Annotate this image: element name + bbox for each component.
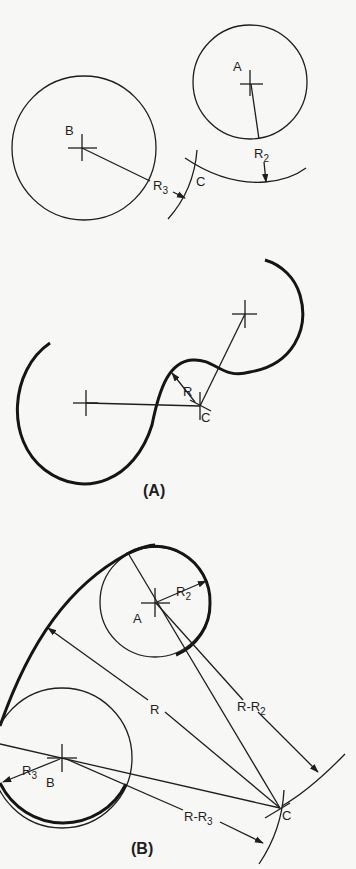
label-b: B bbox=[65, 123, 74, 138]
label-r-minus-r2: R-R2 bbox=[237, 699, 266, 717]
thick-arc-b bbox=[0, 783, 126, 823]
thick-arc-a bbox=[127, 546, 210, 655]
line-a-to-c bbox=[128, 553, 280, 808]
arrow-r-minus-r2 bbox=[258, 712, 318, 772]
line-to-c-right bbox=[200, 314, 245, 406]
label-r2: R2 bbox=[254, 146, 269, 164]
geometric-construction-diagram: A B R2 R3 C bbox=[0, 0, 356, 869]
label-r-minus-r3: R-R3 bbox=[184, 809, 213, 827]
label-b: B bbox=[46, 775, 55, 790]
label-r: R bbox=[150, 702, 159, 717]
label-a: A bbox=[233, 59, 242, 74]
center-mark-a bbox=[240, 70, 263, 96]
label-r3: R3 bbox=[153, 178, 168, 196]
label-r: R bbox=[183, 384, 192, 399]
panel-b-tangent-arc: A R2 B R3 R-R2 R R-R3 C (B) bbox=[0, 545, 345, 864]
label-c: C bbox=[282, 808, 291, 823]
panel-a-reverse-curve: R C (A) bbox=[17, 260, 302, 499]
line-b-to-c bbox=[0, 744, 280, 808]
caption-a: (A) bbox=[143, 482, 165, 499]
top-construction: A B R2 R3 C bbox=[12, 25, 307, 220]
center-mark-b bbox=[68, 134, 97, 161]
arc-r-minus-r2 bbox=[282, 754, 345, 806]
label-r2: R2 bbox=[176, 584, 191, 602]
label-c: C bbox=[196, 174, 205, 189]
arrow-r3 bbox=[173, 192, 185, 198]
line-r-to-c bbox=[165, 712, 280, 808]
arrow-r2 bbox=[264, 162, 266, 182]
radius-line-r2 bbox=[251, 84, 259, 139]
radius-line-r3 bbox=[82, 148, 150, 181]
label-r3: R3 bbox=[22, 763, 37, 781]
arc-r3 bbox=[168, 150, 197, 219]
arrow-r-minus-r3 bbox=[220, 822, 263, 843]
arrow-r bbox=[48, 628, 148, 700]
line-r-minus-r2-a bbox=[155, 602, 243, 700]
caption-b: (B) bbox=[131, 840, 153, 857]
tangent-arc bbox=[0, 545, 155, 726]
label-c: C bbox=[201, 410, 210, 425]
s-curve bbox=[17, 260, 302, 484]
line-to-c bbox=[86, 403, 200, 406]
label-a: A bbox=[133, 611, 142, 626]
line-r-minus-r3-a bbox=[64, 758, 183, 810]
